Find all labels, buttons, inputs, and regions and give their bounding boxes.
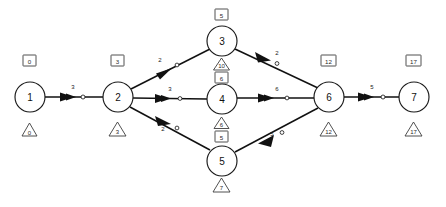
node-5[interactable]: 5 5 7 bbox=[207, 131, 237, 192]
arrow-head-2-5 bbox=[155, 116, 171, 126]
edge-2-4: 3 bbox=[133, 86, 207, 103]
node-label-4: 4 bbox=[219, 94, 225, 105]
edge-weight-6-7: 5 bbox=[370, 84, 374, 90]
early-time-value-1: 0 bbox=[28, 58, 32, 65]
arrow-head-6-7-b bbox=[364, 94, 374, 101]
late-time-value-6: 12 bbox=[325, 129, 332, 135]
edge-midpoint-3-6 bbox=[275, 62, 279, 66]
node-2[interactable]: 2 3 3 bbox=[103, 55, 133, 136]
arrow-head-3-6 bbox=[255, 52, 271, 63]
edge-2-3: 2 bbox=[131, 49, 210, 89]
edge-weight-2-4: 3 bbox=[168, 86, 172, 92]
early-time-value-6: 12 bbox=[325, 58, 332, 65]
node-label-3: 3 bbox=[219, 36, 225, 47]
node-label-7: 7 bbox=[411, 92, 417, 103]
edge-midpoint-4-6 bbox=[285, 96, 289, 100]
node-1[interactable]: 1 0 0 bbox=[15, 55, 45, 136]
node-label-2: 2 bbox=[115, 92, 121, 103]
early-time-value-2: 3 bbox=[116, 58, 120, 65]
edge-weight-3-6: 2 bbox=[275, 50, 279, 56]
edge-6-7: 5 bbox=[344, 84, 399, 102]
edge-midpoint-1-2 bbox=[81, 95, 85, 99]
edge-midpoint-5-6 bbox=[280, 131, 284, 135]
network-diagram-canvas: 3 2 3 2 bbox=[0, 0, 446, 207]
node-label-1: 1 bbox=[27, 92, 33, 103]
arrow-head-4-6-b bbox=[264, 95, 274, 102]
node-6[interactable]: 6 12 12 bbox=[314, 55, 344, 136]
early-time-value-4: 6 bbox=[220, 75, 224, 82]
nodes-layer: 1 0 0 2 3 3 3 5 10 bbox=[15, 9, 429, 192]
node-label-5: 5 bbox=[219, 156, 225, 167]
edge-midpoint-2-5 bbox=[175, 126, 179, 130]
edge-weight-2-3: 2 bbox=[158, 57, 162, 63]
early-time-value-3: 5 bbox=[220, 12, 224, 19]
arrow-head-1-2-b bbox=[66, 94, 76, 101]
edge-line-2-5 bbox=[130, 107, 210, 150]
edge-weight-2-5: 2 bbox=[161, 126, 165, 132]
edge-midpoint-2-3 bbox=[175, 63, 179, 67]
node-3[interactable]: 3 5 10 bbox=[207, 9, 237, 70]
arrow-head-2-3 bbox=[156, 68, 172, 80]
late-time-value-7: 17 bbox=[410, 129, 417, 135]
edge-5-6: 5 bbox=[235, 108, 318, 152]
node-4[interactable]: 4 6 6 bbox=[207, 72, 237, 129]
edge-midpoint-2-4 bbox=[178, 97, 182, 101]
arrow-head-2-4-b bbox=[161, 95, 171, 102]
node-7[interactable]: 7 17 17 bbox=[399, 55, 429, 136]
early-time-value-7: 17 bbox=[410, 58, 417, 65]
edge-weight-1-2: 3 bbox=[71, 84, 75, 90]
edge-2-5: 2 bbox=[130, 107, 210, 150]
early-time-value-5: 5 bbox=[220, 134, 224, 141]
edge-weight-4-6: 6 bbox=[275, 86, 279, 92]
edge-4-6: 6 bbox=[237, 86, 314, 103]
node-label-6: 6 bbox=[326, 92, 332, 103]
late-time-value-3: 10 bbox=[218, 63, 225, 69]
edge-line-5-6 bbox=[235, 108, 318, 152]
edge-midpoint-6-7 bbox=[381, 95, 385, 99]
network-diagram: 3 2 3 2 bbox=[0, 0, 446, 207]
edge-1-2: 3 bbox=[45, 84, 103, 102]
edge-3-6: 2 bbox=[235, 49, 318, 88]
